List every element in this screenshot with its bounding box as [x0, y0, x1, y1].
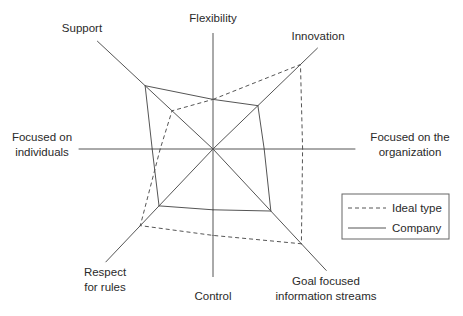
point-company-support	[145, 85, 146, 86]
axis-label-organization: Focused on theorganization	[370, 131, 449, 158]
point-ideal-type-individuals	[160, 148, 161, 149]
axis-labels-group: FlexibilityInnovationFocused on theorgan…	[12, 12, 450, 302]
point-ideal-type-innovation	[300, 64, 301, 65]
point-company-innovation	[257, 105, 258, 106]
axis-label-line: Focused on the	[370, 131, 449, 143]
axis-label-support: Support	[62, 22, 103, 34]
axis-support	[97, 41, 213, 149]
point-ideal-type-goal	[301, 243, 302, 244]
axis-label-line: Innovation	[291, 30, 344, 42]
axis-label-line: Respect	[84, 266, 127, 278]
axes-group	[79, 33, 356, 277]
axis-label-line: individuals	[15, 146, 69, 158]
point-company-flexibility	[212, 99, 213, 100]
axis-label-goal: Goal focusedinformation streams	[276, 275, 377, 302]
series-company	[145, 86, 271, 211]
legend-ideal-label: Ideal type	[392, 202, 442, 214]
series-group	[140, 64, 303, 244]
axis-label-line: Control	[194, 290, 231, 302]
point-company-respect	[158, 205, 159, 206]
point-ideal-type-organization	[302, 148, 303, 149]
axis-label-individuals: Focused onindividuals	[12, 131, 72, 158]
legend: Ideal type Company	[342, 194, 449, 239]
point-ideal-type-support	[171, 110, 172, 111]
axis-label-flexibility: Flexibility	[189, 12, 237, 24]
legend-company-label: Company	[392, 222, 441, 234]
axis-label-control: Control	[194, 290, 231, 302]
axis-label-innovation: Innovation	[291, 30, 344, 42]
point-ideal-type-control	[212, 235, 213, 236]
axis-label-line: Goal focused	[292, 275, 360, 287]
axis-label-respect: Respectfor rules	[84, 266, 127, 293]
point-company-organization	[264, 148, 265, 149]
radar-chart: FlexibilityInnovationFocused on theorgan…	[0, 0, 463, 316]
axis-label-line: organization	[379, 146, 442, 158]
point-company-goal	[270, 210, 271, 211]
point-company-control	[212, 209, 213, 210]
series-ideal-type	[140, 65, 302, 244]
point-company-individuals	[152, 148, 153, 149]
axis-label-line: information streams	[276, 290, 377, 302]
axis-label-line: Flexibility	[189, 12, 237, 24]
axis-label-line: for rules	[84, 281, 126, 293]
axis-label-line: Support	[62, 22, 103, 34]
axis-label-line: Focused on	[12, 131, 72, 143]
point-ideal-type-respect	[140, 225, 141, 226]
